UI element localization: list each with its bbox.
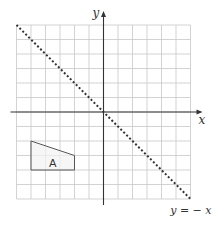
y-axis-arrow-icon: [101, 11, 106, 17]
line-equation-label: y = − x: [169, 204, 212, 217]
shape-a-label: A: [49, 157, 57, 170]
y-axis-label: y: [92, 6, 100, 20]
diagram-canvas: A x y y = − x: [0, 0, 213, 228]
x-axis-label: x: [199, 113, 206, 127]
